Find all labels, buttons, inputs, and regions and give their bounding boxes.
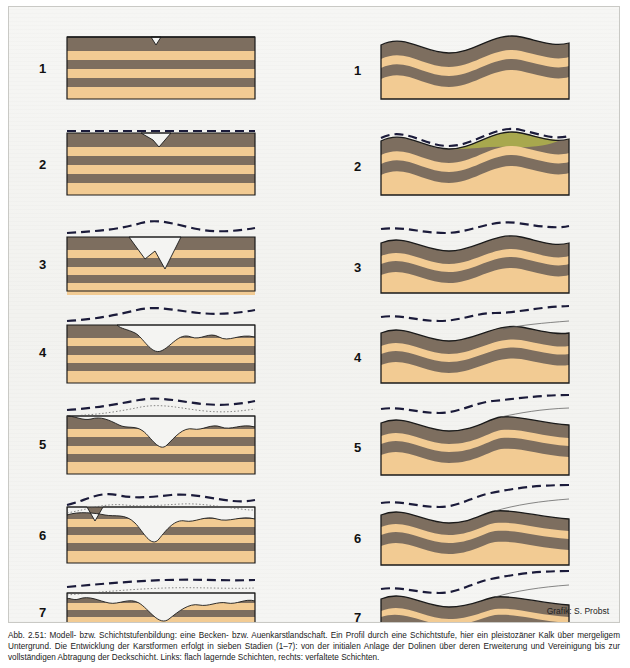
left-stage-label-7: 7 xyxy=(39,605,46,620)
left-stage-label-5: 5 xyxy=(39,437,46,452)
right-stage-3-dashed-surface xyxy=(381,222,569,233)
right-stage-6-thin-line xyxy=(495,499,569,511)
left-stage-label-1: 1 xyxy=(39,61,46,76)
left-stage-2-block xyxy=(67,133,255,195)
right-stage-7-thin-line xyxy=(495,585,569,597)
left-stage-label-6: 6 xyxy=(39,528,46,543)
left-stage-3-block xyxy=(67,237,255,295)
left-stage-label-4: 4 xyxy=(39,345,46,360)
left-stage-4-block xyxy=(67,325,255,383)
right-stage-1-block xyxy=(381,36,569,99)
right-stage-label-7: 7 xyxy=(354,610,361,623)
right-stage-label-2: 2 xyxy=(354,159,361,174)
left-stage-5-dashed-surface xyxy=(67,399,255,410)
figure-caption: Abb. 2.51: Modell- bzw. Schichtstufenbil… xyxy=(8,630,620,663)
right-stage-5-block xyxy=(381,417,569,475)
right-stage-7-block xyxy=(381,596,569,623)
right-stage-label-6: 6 xyxy=(354,531,361,546)
right-stage-4-block xyxy=(381,326,569,383)
right-stage-label-3: 3 xyxy=(354,260,361,275)
left-stage-5-block xyxy=(67,416,255,474)
left-stage-1-block xyxy=(67,37,255,99)
right-stage-label-1: 1 xyxy=(354,63,361,78)
karst-evolution-figure: 1 2 3 4 5 6 7 1 2 3 4 5 6 7 Grafik: S. P… xyxy=(8,6,620,623)
right-stage-6-dashed-surface xyxy=(381,485,569,507)
right-stage-6-block xyxy=(381,511,569,565)
left-stage-label-2: 2 xyxy=(39,157,46,172)
karst-diagram-svg xyxy=(9,7,620,623)
right-stage-label-4: 4 xyxy=(354,350,361,365)
right-stage-5-thin-line xyxy=(501,408,569,417)
left-stage-6-block xyxy=(67,507,255,563)
right-stage-7-dashed-surface xyxy=(381,571,569,593)
right-stage-2-block xyxy=(381,132,569,195)
left-stage-7-dashed-surface xyxy=(67,580,255,587)
left-stage-7-block xyxy=(67,593,255,623)
left-stage-3-dashed-surface xyxy=(67,221,255,233)
right-stage-3-block xyxy=(381,236,569,293)
right-stage-label-5: 5 xyxy=(354,440,361,455)
right-stage-4-dashed-surface xyxy=(381,306,569,321)
left-stage-4-dashed-surface xyxy=(67,308,255,321)
left-stage-6-dashed-surface xyxy=(67,494,255,505)
figure-credit: Grafik: S. Probst xyxy=(547,606,609,616)
left-stage-label-3: 3 xyxy=(39,257,46,272)
